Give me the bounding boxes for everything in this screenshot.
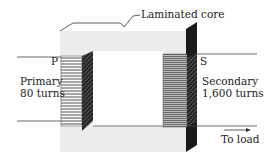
primary-coil xyxy=(61,51,93,131)
core-window xyxy=(92,51,164,126)
secondary-coil xyxy=(163,53,197,127)
core-outline-top xyxy=(60,23,125,31)
secondary-winding xyxy=(163,54,187,127)
primary-coil-side xyxy=(82,51,93,131)
core-leader-line xyxy=(124,15,140,27)
secondary-name-label: Secondary xyxy=(202,75,258,87)
to-load-label: To load xyxy=(221,133,260,145)
transformer-diagram: Laminated core P Primary 80 turns S Seco… xyxy=(0,0,275,168)
primary-terminal-label: P xyxy=(51,55,58,67)
load-arrow-head xyxy=(246,128,251,132)
secondary-turns-label: 1,600 turns xyxy=(202,87,264,99)
primary-turns-label: 80 turns xyxy=(20,87,65,99)
secondary-terminal-label: S xyxy=(200,55,207,67)
secondary-coil-side xyxy=(187,53,197,127)
primary-name-label: Primary xyxy=(20,75,63,87)
core-label: Laminated core xyxy=(141,8,225,20)
